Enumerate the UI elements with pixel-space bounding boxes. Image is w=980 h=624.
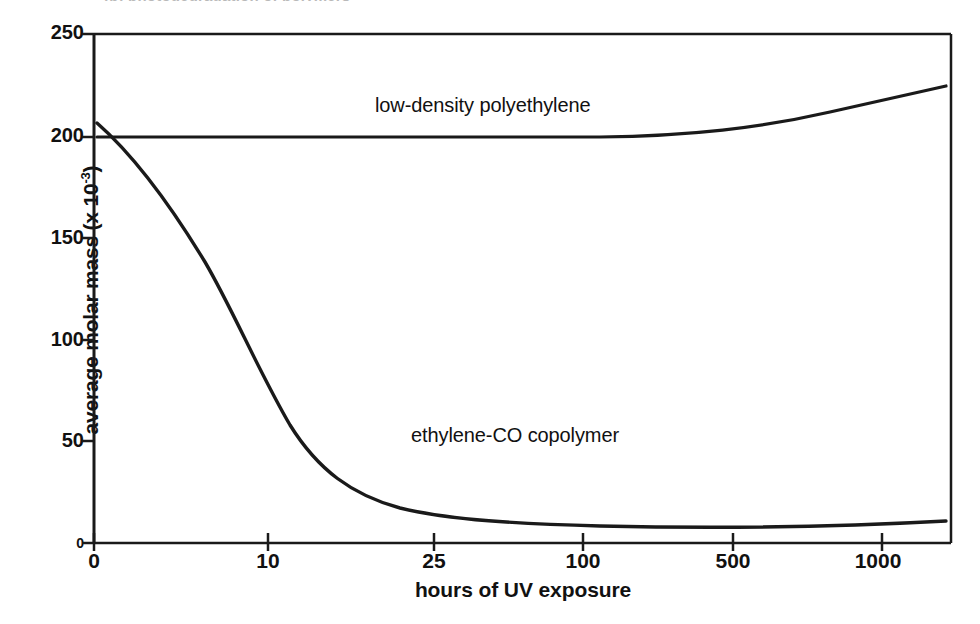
series-label-low-density-polyethylene: low-density polyethylene: [375, 94, 591, 117]
series-label-ethylene-co-copolymer: ethylene-CO copolymer: [411, 424, 619, 447]
series-line-ethylene-co-copolymer: [97, 123, 946, 527]
chart-figure: (b) photodegradation of polymers average…: [0, 0, 980, 624]
